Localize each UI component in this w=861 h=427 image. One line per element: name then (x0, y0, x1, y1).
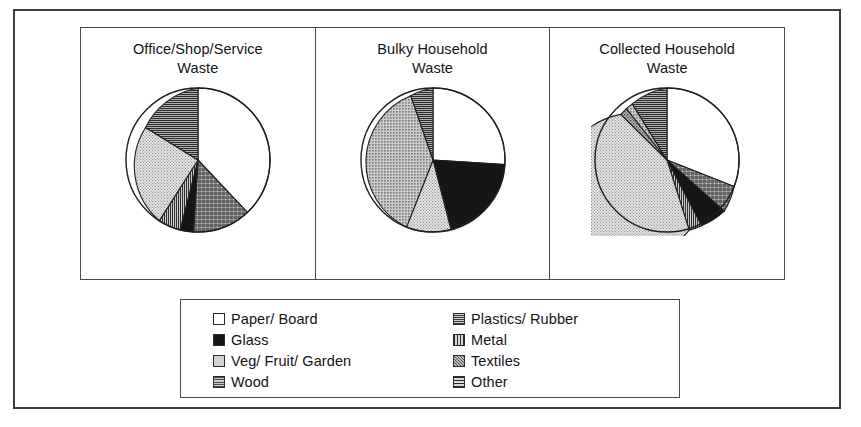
legend-swatch-veg-icon (213, 355, 225, 367)
legend-label: Wood (231, 374, 269, 390)
legend-label: Paper/ Board (231, 311, 318, 327)
pie-slice-paper (433, 88, 505, 165)
pie-svg (591, 84, 743, 236)
legend-item-veg: Veg/ Fruit/ Garden (213, 353, 453, 369)
pie-chart-collected-household (591, 84, 743, 279)
legend-label: Veg/ Fruit/ Garden (231, 353, 351, 369)
legend-item-metal: Metal (453, 332, 671, 348)
legend-swatch-metal-icon (453, 334, 465, 346)
pie-chart-office-shop-service (122, 84, 274, 279)
legend-label: Textiles (471, 353, 520, 369)
legend-item-paper: Paper/ Board (213, 311, 453, 327)
legend-label: Metal (471, 332, 507, 348)
pie-svg (122, 84, 274, 236)
pie-panels-row: Office/Shop/Service Waste (80, 27, 785, 280)
pie-svg (357, 84, 509, 236)
legend-swatch-wood-icon (213, 376, 225, 388)
legend-label: Plastics/ Rubber (471, 311, 578, 327)
panel-title: Collected Household Waste (599, 40, 735, 78)
legend-grid: Paper/ Board Plastics/ Rubber Glass Meta… (213, 308, 671, 392)
legend-swatch-plastics-icon (453, 313, 465, 325)
legend-item-plastics: Plastics/ Rubber (453, 311, 671, 327)
legend-box: Paper/ Board Plastics/ Rubber Glass Meta… (180, 299, 680, 398)
legend-item-wood: Wood (213, 374, 453, 390)
legend-label: Glass (231, 332, 269, 348)
pie-panel-collected-household: Collected Household Waste (549, 28, 784, 279)
legend-swatch-textiles-icon (453, 355, 465, 367)
pie-panel-office-shop-service: Office/Shop/Service Waste (81, 28, 315, 279)
legend-item-glass: Glass (213, 332, 453, 348)
pie-panel-bulky-household: Bulky Household Waste (315, 28, 550, 279)
legend-item-other: Other (453, 374, 671, 390)
legend-swatch-paper-icon (213, 313, 225, 325)
legend-label: Other (471, 374, 508, 390)
panel-title: Bulky Household Waste (377, 40, 487, 78)
legend-swatch-glass-icon (213, 334, 225, 346)
pie-chart-bulky-household (357, 84, 509, 279)
legend-item-textiles: Textiles (453, 353, 671, 369)
panel-title: Office/Shop/Service Waste (133, 40, 263, 78)
legend-swatch-other-icon (453, 376, 465, 388)
figure-frame: Office/Shop/Service Waste (13, 9, 841, 409)
